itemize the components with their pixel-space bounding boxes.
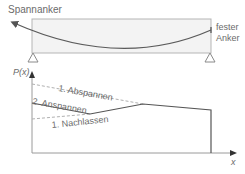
fester-label: fester bbox=[216, 22, 239, 32]
spannanker-label: Spannanker bbox=[8, 4, 63, 15]
right-support-icon bbox=[205, 53, 215, 62]
prestress-diagram: Spannanker fester Anker P(x) x 1. Abspan… bbox=[0, 0, 245, 174]
abspannen-label: 1. Abspannen bbox=[58, 83, 114, 102]
left-support-icon bbox=[28, 53, 38, 62]
anker-label: Anker bbox=[216, 33, 240, 43]
x-axis-label: x bbox=[230, 157, 236, 167]
x-axis-arrow-icon bbox=[230, 150, 237, 156]
anspannen-label: 2. Anspannen bbox=[32, 96, 88, 115]
y-axis-arrow-icon bbox=[29, 71, 35, 78]
y-axis-label: P(x) bbox=[13, 67, 30, 77]
